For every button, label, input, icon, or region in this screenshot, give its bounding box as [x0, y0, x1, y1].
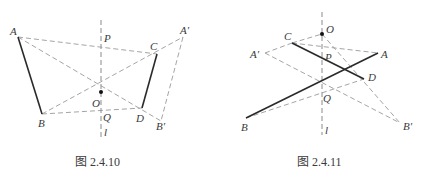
label-D: D: [135, 112, 144, 124]
label-A: A: [380, 48, 388, 60]
segment-OB-prime: [322, 34, 400, 123]
label-B: B: [241, 121, 248, 133]
segment-A-prime-B-prime: [161, 37, 183, 121]
label-B-prime: B′: [403, 120, 413, 132]
label-A: A: [9, 25, 17, 37]
segment-CD: [142, 54, 157, 108]
label-l: l: [104, 126, 107, 138]
label-P: P: [324, 51, 332, 63]
caption: 图 2.4.11: [297, 155, 342, 169]
label-A-prime: A′: [179, 24, 190, 36]
point-O: [320, 32, 324, 36]
label-D: D: [367, 71, 376, 83]
segment-A-prime-C: [265, 43, 292, 53]
segment-AB: [18, 37, 42, 114]
figure-2-4-11: C A′ A D B B′ O P Q l 图 2.4.11: [241, 12, 413, 169]
point-O: [99, 90, 103, 94]
label-Q: Q: [323, 92, 331, 104]
segment-CO: [292, 34, 322, 43]
segment-BD: [246, 79, 364, 118]
segment-CA: [292, 43, 378, 53]
label-P: P: [103, 32, 111, 44]
label-O: O: [92, 97, 100, 109]
figure-2-4-10: A B C D A′ B′ O P Q l 图 2.4.10: [9, 20, 190, 169]
segment-AC: [18, 37, 157, 54]
diagram-canvas: A B C D A′ B′ O P Q l 图 2.4.10 C A′ A D …: [0, 0, 424, 175]
segment-AB: [246, 53, 378, 118]
label-Q: Q: [103, 111, 111, 123]
label-O: O: [326, 23, 334, 35]
label-C: C: [150, 40, 158, 52]
label-B-prime: B′: [156, 120, 166, 132]
label-B: B: [38, 117, 45, 129]
label-l: l: [325, 124, 328, 136]
segment-BA-prime: [42, 37, 183, 114]
caption: 图 2.4.10: [75, 155, 120, 169]
label-C: C: [284, 30, 292, 42]
label-A-prime: A′: [249, 48, 260, 60]
